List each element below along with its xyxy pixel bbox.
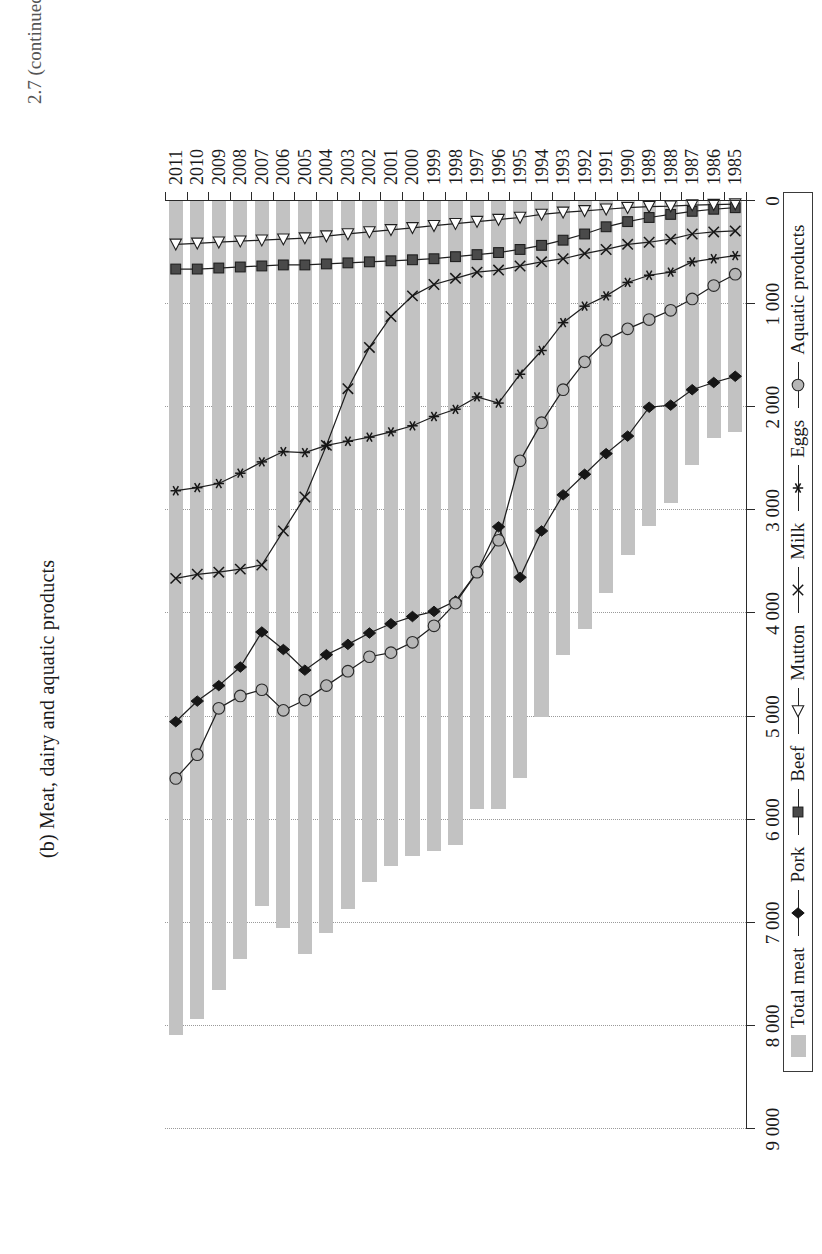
asterisk-marker	[214, 479, 224, 488]
filled-square-marker	[171, 264, 181, 274]
chart-legend: Total meatPorkBeefMuttonMilkEggsAquatic …	[783, 192, 813, 1072]
filled-square-marker	[494, 248, 504, 258]
filled-diamond-marker	[514, 572, 526, 582]
grey-circle-marker	[686, 293, 698, 305]
category-axis-label: 1995	[510, 149, 531, 185]
grey-circle-marker	[600, 334, 612, 346]
grey-circle-marker	[471, 566, 483, 578]
filled-square-marker	[386, 256, 396, 266]
legend-item-milk[interactable]: Milk	[787, 511, 809, 613]
cross-x-marker	[364, 342, 374, 352]
asterisk-marker	[343, 437, 353, 446]
filled-square-marker	[623, 217, 633, 227]
filled-square-marker	[558, 235, 568, 245]
grey-circle-marker	[622, 323, 634, 335]
legend-label: Mutton	[787, 625, 809, 681]
filled-diamond-marker	[428, 606, 440, 616]
filled-square-marker	[790, 789, 806, 835]
filled-diamond-marker	[363, 628, 375, 638]
value-axis-label: 0	[762, 196, 784, 206]
asterisk-marker	[171, 486, 181, 495]
grey-circle-marker	[213, 703, 225, 715]
category-axis-label: 1987	[682, 149, 703, 185]
category-axis-label: 2001	[380, 149, 401, 185]
grey-circle-marker	[536, 417, 548, 429]
legend-item-beef[interactable]: Beef	[787, 734, 809, 835]
legend-item-aquatic-products[interactable]: Aquatic products	[787, 213, 809, 408]
filled-diamond-marker	[708, 377, 720, 387]
value-tick	[746, 1128, 755, 1129]
filled-square-marker	[343, 258, 353, 268]
filled-square-marker	[472, 250, 482, 260]
asterisk-marker	[278, 447, 288, 456]
value-axis-label: 1 000	[762, 283, 784, 326]
cross-x-marker	[601, 244, 611, 254]
open-triangle-marker	[790, 688, 806, 734]
filled-square-marker	[192, 264, 202, 274]
asterisk-marker	[790, 465, 806, 511]
value-tick	[746, 1025, 755, 1026]
legend-label: Pork	[787, 847, 809, 883]
legend-label: Eggs	[787, 420, 809, 458]
grey-circle-marker	[729, 268, 741, 280]
category-axis-label: 2003	[337, 149, 358, 185]
asterisk-marker	[235, 469, 245, 478]
plot-area: 01 0002 0003 0004 0005 0006 0007 0008 00…	[165, 201, 746, 1129]
asterisk-marker	[472, 392, 482, 401]
grey-circle-marker	[428, 620, 440, 632]
asterisk-marker	[257, 457, 267, 466]
grey-circle-marker	[321, 680, 333, 692]
chart-title: (b) Meat, dairy and aquatic products	[36, 560, 59, 858]
grey-circle-marker	[299, 694, 311, 706]
category-axis-label: 2000	[402, 149, 423, 185]
filled-diamond-marker	[406, 611, 418, 621]
cross-x-marker	[579, 248, 589, 258]
category-axis-label: 2008	[230, 149, 251, 185]
cross-x-marker	[171, 573, 181, 583]
filled-square-marker	[515, 245, 525, 255]
value-axis-line	[746, 201, 747, 1129]
grey-circle-marker	[557, 384, 569, 396]
asterisk-marker	[622, 278, 632, 287]
value-axis-label: 3 000	[762, 489, 784, 532]
asterisk-marker	[450, 405, 460, 414]
category-axis-label: 1996	[488, 149, 509, 185]
filled-square-marker	[793, 807, 803, 817]
asterisk-marker	[493, 399, 503, 408]
grey-circle-marker	[278, 705, 290, 717]
asterisk-marker	[793, 483, 803, 492]
legend-bar-swatch	[791, 1035, 806, 1057]
legend-label: Total meat	[787, 948, 809, 1028]
cross-x-marker	[343, 383, 353, 393]
filled-square-marker	[365, 257, 375, 267]
legend-item-pork[interactable]: Pork	[787, 835, 809, 936]
value-tick	[746, 200, 755, 201]
asterisk-marker	[192, 483, 202, 492]
legend-item-eggs[interactable]: Eggs	[787, 408, 809, 511]
value-tick	[746, 303, 755, 304]
filled-square-marker	[451, 252, 461, 262]
grey-circle-marker	[364, 651, 376, 663]
filled-square-marker	[644, 213, 654, 223]
category-axis-label: 1989	[639, 149, 660, 185]
value-axis-label: 8 000	[762, 1005, 784, 1048]
value-axis-label: 7 000	[762, 901, 784, 944]
filled-diamond-marker	[643, 402, 655, 412]
value-tick	[746, 819, 755, 820]
cross-x-marker	[386, 311, 396, 321]
category-axis-label: 2011	[165, 150, 186, 185]
legend-item-total-meat[interactable]: Total meat	[787, 936, 809, 1057]
asterisk-marker	[364, 433, 374, 442]
category-axis-line	[165, 200, 746, 201]
filled-square-marker	[321, 259, 331, 269]
category-tick	[746, 192, 747, 201]
asterisk-marker	[665, 268, 675, 277]
category-axis-label: 1986	[703, 149, 724, 185]
category-axis-label: 1999	[423, 149, 444, 185]
cross-x-marker	[793, 585, 803, 595]
value-tick	[746, 406, 755, 407]
asterisk-marker	[429, 412, 439, 421]
legend-item-mutton[interactable]: Mutton	[787, 613, 809, 734]
filled-diamond-marker	[729, 371, 741, 381]
category-axis-label: 1994	[531, 149, 552, 185]
